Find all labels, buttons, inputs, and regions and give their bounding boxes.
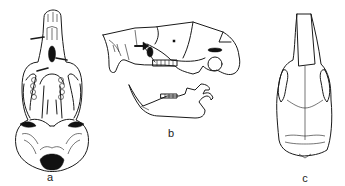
panel-label-b: b bbox=[161, 127, 181, 139]
lateral-skull-drawing bbox=[95, 0, 245, 186]
dorsal-skull-drawing bbox=[245, 0, 345, 186]
ventral-skull-drawing bbox=[0, 0, 110, 186]
panel-label-c: c bbox=[295, 172, 315, 184]
panel-label-a: a bbox=[40, 171, 60, 183]
panel-b-lateral-skull: b bbox=[95, 0, 245, 186]
panel-c-dorsal-skull: c bbox=[245, 0, 345, 186]
panel-a-ventral-skull: a bbox=[0, 0, 110, 186]
